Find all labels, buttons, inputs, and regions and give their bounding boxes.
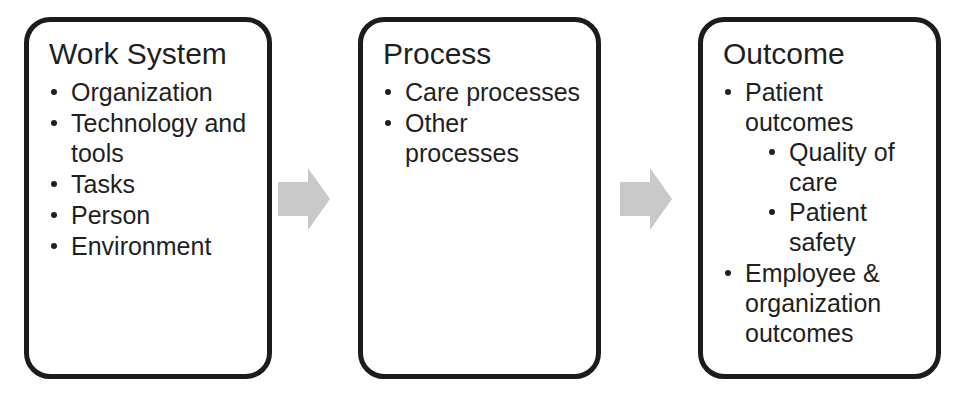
list-item: Employee & organization outcomes xyxy=(723,258,928,348)
sub-bullet-list-patient-outcomes: Quality of care Patient safety xyxy=(745,137,928,257)
bullet-dot-icon xyxy=(51,243,57,249)
diagram-box-process: Process Care processes Other processes xyxy=(358,17,601,379)
sub-list-item-label: Quality of care xyxy=(789,137,928,197)
list-item-label: Patient outcomes xyxy=(745,77,928,137)
sub-list-item-label: Patient safety xyxy=(789,197,928,257)
bullet-dot-icon xyxy=(51,89,57,95)
arrow-work-system-to-process xyxy=(278,166,330,232)
sub-list-item: Patient safety xyxy=(767,197,928,257)
box-content-work-system: Work System Organization Technology and … xyxy=(49,36,259,262)
bullet-dot-icon xyxy=(769,209,775,215)
bullet-list-outcome: Patient outcomes Quality of care Patient… xyxy=(723,77,928,348)
list-item-label: Employee & organization outcomes xyxy=(745,258,928,348)
bullet-dot-icon xyxy=(725,270,731,276)
list-item: Other processes xyxy=(383,108,588,168)
bullet-dot-icon xyxy=(385,89,391,95)
list-item-label: Tasks xyxy=(71,169,259,199)
list-item: Person xyxy=(49,200,259,230)
diagram-box-work-system: Work System Organization Technology and … xyxy=(24,17,272,379)
bullet-dot-icon xyxy=(51,120,57,126)
box-title-work-system: Work System xyxy=(49,36,259,71)
list-item-label: Technology and tools xyxy=(71,108,259,168)
list-item: Environment xyxy=(49,231,259,261)
bullet-list-process: Care processes Other processes xyxy=(383,77,588,168)
arrow-process-to-outcome xyxy=(620,166,672,232)
box-content-outcome: Outcome Patient outcomes Quality of care… xyxy=(723,36,928,349)
bullet-dot-icon xyxy=(769,149,775,155)
process-flow-diagram: Work System Organization Technology and … xyxy=(0,0,962,397)
bullet-dot-icon xyxy=(725,89,731,95)
list-item-label: Environment xyxy=(71,231,259,261)
box-title-outcome: Outcome xyxy=(723,36,928,71)
list-item-label: Person xyxy=(71,200,259,230)
list-item-label: Care processes xyxy=(405,77,588,107)
list-item: Care processes xyxy=(383,77,588,107)
list-item: Organization xyxy=(49,77,259,107)
list-item: Patient outcomes Quality of care Patient… xyxy=(723,77,928,257)
sub-list-item: Quality of care xyxy=(767,137,928,197)
list-item-label: Organization xyxy=(71,77,259,107)
box-title-process: Process xyxy=(383,36,588,71)
diagram-box-outcome: Outcome Patient outcomes Quality of care… xyxy=(698,17,941,379)
box-content-process: Process Care processes Other processes xyxy=(383,36,588,169)
bullet-dot-icon xyxy=(51,212,57,218)
list-item-label: Other processes xyxy=(405,108,588,168)
list-item: Technology and tools xyxy=(49,108,259,168)
list-item: Tasks xyxy=(49,169,259,199)
bullet-dot-icon xyxy=(51,181,57,187)
bullet-list-work-system: Organization Technology and tools Tasks … xyxy=(49,77,259,261)
bullet-dot-icon xyxy=(385,120,391,126)
